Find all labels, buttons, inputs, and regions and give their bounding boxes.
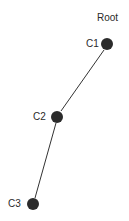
node-c2 [51,111,63,123]
node-c3 [27,198,39,210]
node-label-c3: C3 [8,199,21,209]
tree-diagram [0,0,129,221]
edge-c2-c3 [35,123,56,198]
edge-c1-c2 [61,50,104,111]
root-label: Root [97,13,118,23]
node-label-c1: C1 [86,39,99,49]
node-label-c2: C2 [33,112,46,122]
node-c1 [101,38,113,50]
